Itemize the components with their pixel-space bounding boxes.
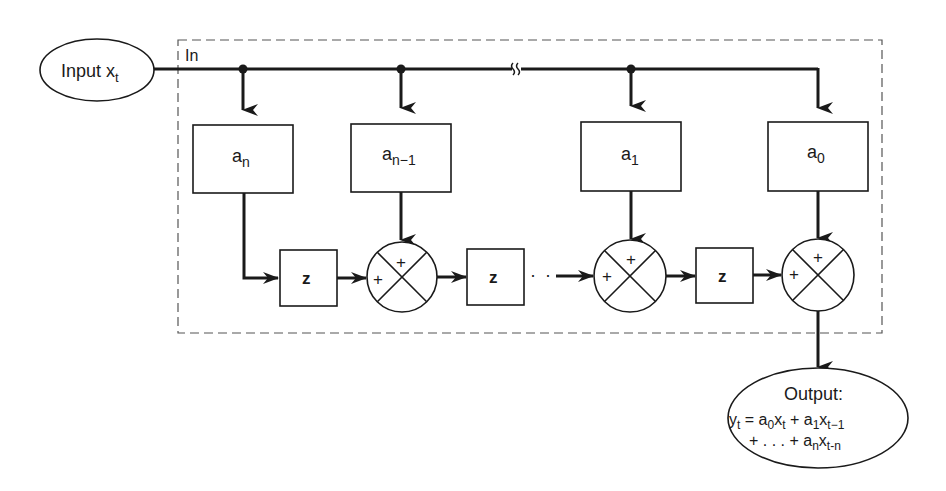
coef-box-an: an <box>193 125 293 193</box>
svg-text:z: z <box>718 267 727 286</box>
input-bus <box>154 68 818 110</box>
bus-break-icon <box>512 63 520 75</box>
svg-text:z: z <box>489 268 498 287</box>
summer-2: + + <box>594 240 666 312</box>
svg-text:+: + <box>813 248 823 267</box>
coef-box-a0: a0 <box>768 122 868 191</box>
ellipsis-dots: · · · <box>530 265 568 285</box>
input-node: Input xt <box>40 39 154 101</box>
output-node: Output: yt = a0xt + a1xt−1 + . . . + anx… <box>728 368 908 468</box>
delay-box-2: z <box>467 249 524 305</box>
svg-text:+: + <box>373 270 383 289</box>
svg-text:+: + <box>602 267 612 286</box>
summer-3: + + <box>782 239 854 311</box>
svg-text:+: + <box>396 253 406 272</box>
coef-box-a1: a1 <box>581 122 681 191</box>
output-title: Output: <box>784 384 843 404</box>
svg-text:z: z <box>302 269 311 288</box>
delay-box-1: z <box>280 250 337 306</box>
svg-text:+: + <box>626 250 636 269</box>
fir-filter-diagram: In Input xt an an−1 a1 a0 <box>0 0 946 491</box>
svg-text:+: + <box>789 265 799 284</box>
enclosure-label: In <box>185 47 198 64</box>
delay-box-3: z <box>696 248 753 303</box>
summer-1: + + <box>367 242 437 312</box>
coef-box-an-1: an−1 <box>351 124 451 192</box>
